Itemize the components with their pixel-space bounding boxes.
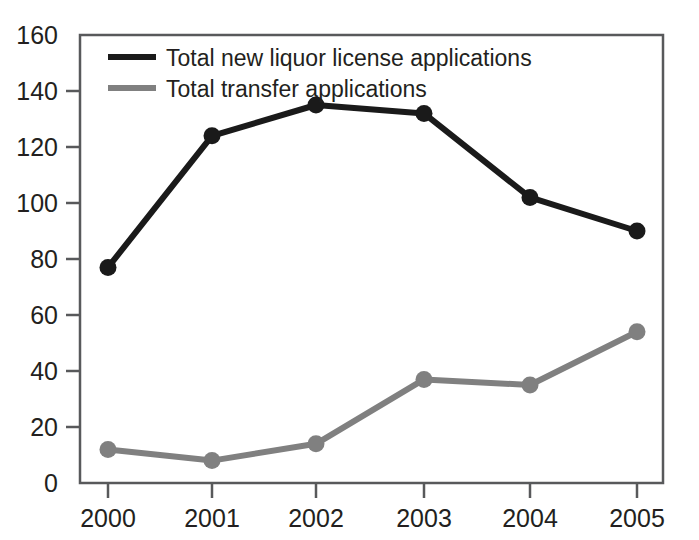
- data-point-marker: [416, 371, 433, 388]
- data-point-marker: [629, 223, 646, 240]
- x-axis-tick-label: 2002: [288, 504, 344, 532]
- data-point-marker: [416, 105, 433, 122]
- data-point-marker: [308, 435, 325, 452]
- x-axis-tick-label: 2003: [396, 504, 452, 532]
- chart-canvas: 160140120100806040200 200020012002200320…: [0, 0, 699, 540]
- data-point-marker: [100, 259, 117, 276]
- y-axis-tick-label: 100: [16, 189, 58, 217]
- x-axis-ticks: [108, 483, 637, 498]
- legend-label-2: Total transfer applications: [166, 76, 427, 102]
- line-chart-figure: 160140120100806040200 200020012002200320…: [0, 0, 699, 540]
- y-axis-tick-label: 140: [16, 77, 58, 105]
- y-axis-tick-label: 0: [44, 469, 58, 497]
- y-axis-tick-label: 20: [30, 413, 58, 441]
- y-axis-ticks: [66, 91, 80, 427]
- data-point-marker: [522, 377, 539, 394]
- y-axis-tick-label: 80: [30, 245, 58, 273]
- data-point-marker: [629, 323, 646, 340]
- y-axis-tick-label: 40: [30, 357, 58, 385]
- data-point-marker: [204, 452, 221, 469]
- x-axis-tick-labels: 200020012002200320042005: [80, 504, 665, 532]
- y-axis-tick-label: 120: [16, 133, 58, 161]
- y-axis-tick-label: 60: [30, 301, 58, 329]
- data-point-marker: [100, 441, 117, 458]
- x-axis-tick-label: 2005: [609, 504, 665, 532]
- legend-label-1: Total new liquor license applications: [166, 45, 532, 71]
- data-point-marker: [522, 189, 539, 206]
- data-point-marker: [204, 127, 221, 144]
- x-axis-tick-label: 2004: [502, 504, 558, 532]
- x-axis-tick-label: 2000: [80, 504, 136, 532]
- y-axis-tick-label: 160: [16, 21, 58, 49]
- y-axis-tick-labels: 160140120100806040200: [16, 21, 58, 497]
- x-axis-tick-label: 2001: [184, 504, 240, 532]
- plot-area-background: [80, 35, 663, 483]
